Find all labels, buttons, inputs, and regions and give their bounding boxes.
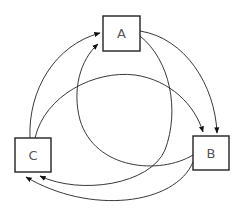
node-c-label: C [28,148,37,163]
edge-b-to-a [77,44,193,166]
diagram-canvas: A B C [0,0,244,221]
edge-a-to-c [40,36,172,185]
node-b: B [193,136,229,170]
node-c: C [15,138,51,172]
edge-a-to-b [140,31,217,133]
node-b-label: B [207,146,216,161]
node-a-label: A [117,26,126,41]
node-a: A [103,16,140,51]
edge-c-to-b [35,74,203,138]
